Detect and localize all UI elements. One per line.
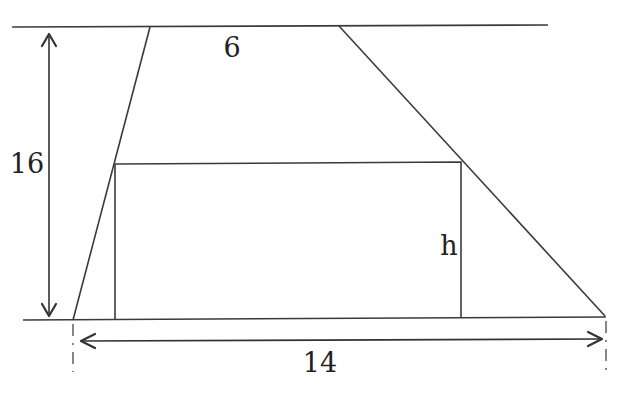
height-label: 16 xyxy=(10,148,44,179)
trapezoid-left-side xyxy=(73,27,150,320)
width-arrow-shaft xyxy=(81,339,601,341)
top-parallel-line xyxy=(12,25,548,27)
bottom-parallel-line xyxy=(23,317,606,320)
trapezoid-diagram: 6 16 h 14 xyxy=(0,0,629,398)
top-base-label: 6 xyxy=(223,32,240,63)
trapezoid-right-side xyxy=(339,26,605,316)
bottom-base-label: 14 xyxy=(303,347,337,378)
rect-height-label: h xyxy=(440,230,457,261)
inscribed-rectangle xyxy=(115,162,461,319)
